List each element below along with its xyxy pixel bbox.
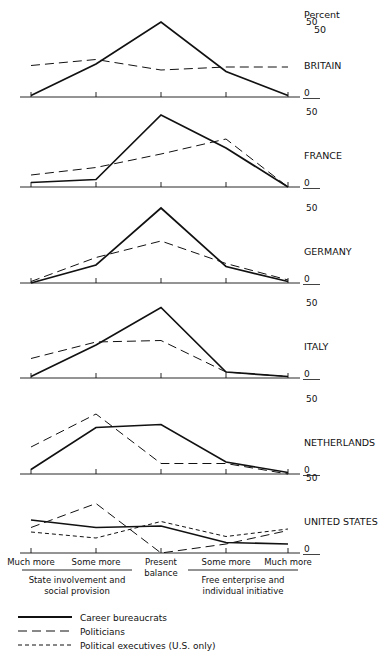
- figure-container: 500BRITAIN500FRANCE500GERMANY500ITALY500…: [0, 0, 392, 656]
- x-tick-label-4: Much more: [264, 557, 312, 567]
- panel-netherlands: [20, 414, 320, 476]
- bracket-right-label: Free enterprise and: [201, 575, 284, 585]
- bracket-right-label: individual initiative: [203, 586, 284, 596]
- x-tick-label-3: Some more: [202, 557, 251, 567]
- panel-zero-scale-label-2: 0: [304, 274, 310, 284]
- panel-top-scale-label-3: 50: [306, 298, 318, 308]
- series-line-solid: [31, 22, 288, 96]
- panel-top-scale-label-5: 50: [306, 473, 318, 483]
- series-line-long-dash: [31, 60, 288, 71]
- legend-label-1: Politicians: [80, 627, 125, 637]
- x-tick-label-2: Present: [145, 557, 178, 567]
- panel-zero-scale-label-3: 0: [304, 369, 310, 379]
- series-line-solid: [31, 425, 288, 473]
- bracket-left-label: State involvement and: [29, 575, 126, 585]
- panel-britain: [20, 22, 320, 99]
- multi-panel-line-chart: 500BRITAIN500FRANCE500GERMANY500ITALY500…: [0, 0, 392, 656]
- x-tick-label-2: balance: [144, 568, 177, 578]
- percent-top-value: 50: [314, 24, 326, 35]
- panel-zero-scale-label-1: 0: [304, 178, 310, 188]
- bracket-left-label: social provision: [44, 586, 110, 596]
- panel-label-3: ITALY: [304, 341, 328, 352]
- x-tick-label-1: Some more: [72, 557, 121, 567]
- panel-label-0: BRITAIN: [304, 60, 341, 71]
- legend-label-0: Career bureaucrats: [80, 613, 167, 623]
- panel-top-scale-label-4: 50: [306, 394, 318, 404]
- series-line-solid: [31, 520, 288, 544]
- panel-france: [20, 115, 320, 189]
- percent-axis-title: Percent: [304, 9, 340, 20]
- panel-italy: [20, 308, 320, 380]
- panel-zero-scale-label-0: 0: [304, 88, 310, 98]
- series-line-long-dash: [31, 504, 288, 554]
- panel-label-1: FRANCE: [304, 150, 342, 161]
- legend-label-2: Political executives (U.S. only): [80, 641, 215, 651]
- panel-label-2: GERMANY: [304, 246, 352, 257]
- panel-top-scale-label-1: 50: [306, 107, 318, 117]
- panel-zero-scale-label-5: 0: [304, 544, 310, 554]
- panel-united-states: [20, 504, 320, 555]
- series-line-solid: [31, 208, 288, 283]
- panel-label-4: NETHERLANDS: [304, 437, 375, 448]
- panel-top-scale-label-2: 50: [306, 203, 318, 213]
- series-line-long-dash: [31, 241, 288, 282]
- panel-label-5: UNITED STATES: [304, 516, 378, 527]
- series-line-solid: [31, 308, 288, 377]
- x-tick-label-0: Much more: [7, 557, 55, 567]
- series-line-solid: [31, 115, 288, 187]
- panel-germany: [20, 208, 320, 285]
